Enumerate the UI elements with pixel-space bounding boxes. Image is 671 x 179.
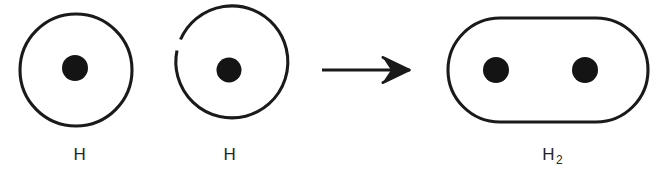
chemistry-diagram: H H H2 (0, 0, 671, 179)
hydrogen-atom-2-nucleus-dot (217, 58, 242, 83)
hydrogen-molecule-shell-stadium (448, 18, 648, 122)
hydrogen-atom-2-label: H (224, 146, 237, 163)
hydrogen-molecule-label-subscript: 2 (556, 153, 563, 167)
hydrogen-atom-1-label: H (74, 146, 87, 163)
hydrogen-molecule-label-base: H (542, 145, 555, 164)
hydrogen-molecule-nucleus-dot-right (572, 57, 598, 83)
diagram-canvas (0, 0, 671, 179)
hydrogen-molecule-label: H2 (542, 146, 561, 163)
hydrogen-molecule-nucleus-dot-left (483, 57, 509, 83)
reaction-arrow-icon (322, 58, 409, 83)
hydrogen-atom-1-nucleus-dot (62, 55, 88, 81)
